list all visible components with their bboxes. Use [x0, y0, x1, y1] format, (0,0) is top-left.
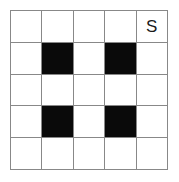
grid-cell-r1-c1[interactable]	[42, 43, 73, 75]
grid-cell-r2-c2[interactable]	[74, 75, 105, 107]
puzzle-grid: S	[10, 10, 168, 170]
grid-cell-r2-c1[interactable]	[42, 75, 73, 107]
grid-cell-r1-c4[interactable]	[137, 43, 168, 75]
grid-cell-r4-c4[interactable]	[137, 138, 168, 170]
grid-cell-r2-c4[interactable]	[137, 75, 168, 107]
puzzle-canvas: S	[0, 0, 179, 182]
grid-cell-r2-c3[interactable]	[105, 75, 136, 107]
grid-cell-r4-c3[interactable]	[105, 138, 136, 170]
grid-cell-r1-c0[interactable]	[11, 43, 42, 75]
grid-cell-r0-c0[interactable]	[11, 11, 42, 43]
grid-cell-r3-c0[interactable]	[11, 106, 42, 138]
grid-cell-r1-c2[interactable]	[74, 43, 105, 75]
grid-cell-r4-c1[interactable]	[42, 138, 73, 170]
grid-cell-r3-c4[interactable]	[137, 106, 168, 138]
grid-cell-r0-c4[interactable]: S	[137, 11, 168, 43]
grid-cell-r4-c2[interactable]	[74, 138, 105, 170]
grid-cell-r0-c1[interactable]	[42, 11, 73, 43]
grid-cell-label: S	[146, 18, 157, 35]
grid-cell-r4-c0[interactable]	[11, 138, 42, 170]
grid-cell-r0-c2[interactable]	[74, 11, 105, 43]
grid-cell-r3-c3[interactable]	[105, 106, 136, 138]
grid-cell-r3-c1[interactable]	[42, 106, 73, 138]
grid-cell-r1-c3[interactable]	[105, 43, 136, 75]
grid-cell-r2-c0[interactable]	[11, 75, 42, 107]
grid-cell-r0-c3[interactable]	[105, 11, 136, 43]
grid-cell-r3-c2[interactable]	[74, 106, 105, 138]
